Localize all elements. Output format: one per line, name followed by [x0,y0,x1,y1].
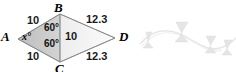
angle-label-unknown-x: x° [22,32,31,42]
wavy-ribbon-ornament [140,22,236,55]
vertex-label-d: D [119,30,128,43]
angle-label-upper-60: 60° [44,23,59,33]
angle-label-lower-60: 60° [44,39,59,49]
side-length-ab: 10 [27,15,39,26]
vertex-label-b: B [54,1,63,14]
diagonal-length-bc: 10 [65,31,77,42]
vertex-label-c: C [55,62,64,72]
vertex-label-a: A [1,30,10,43]
figure-canvas: A B C D 10 10 12.3 12.3 10 60° 60° x° [0,0,236,72]
side-length-cd: 12.3 [86,51,107,62]
side-length-ac: 10 [27,51,39,62]
side-length-bd: 12.3 [86,14,107,25]
